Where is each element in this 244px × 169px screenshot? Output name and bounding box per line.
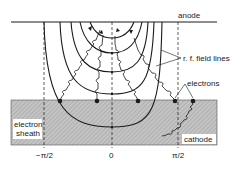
electron-sheath-label-line2: sheath: [16, 129, 40, 138]
electron-sheath-label-line1: electron: [14, 120, 42, 129]
magnetron-diagram: anode r. f. field lines electrons electr…: [0, 0, 244, 169]
tick-pi-over-2: π/2: [172, 151, 185, 160]
electrons-label: electrons: [187, 79, 219, 88]
rf-field-lines-label: r. f. field lines: [183, 54, 230, 63]
cathode-label: cathode: [184, 135, 213, 144]
tick-zero: 0: [109, 151, 114, 160]
tick-minus-pi-over-2: −π/2: [36, 151, 53, 160]
anode-label: anode: [178, 11, 201, 20]
